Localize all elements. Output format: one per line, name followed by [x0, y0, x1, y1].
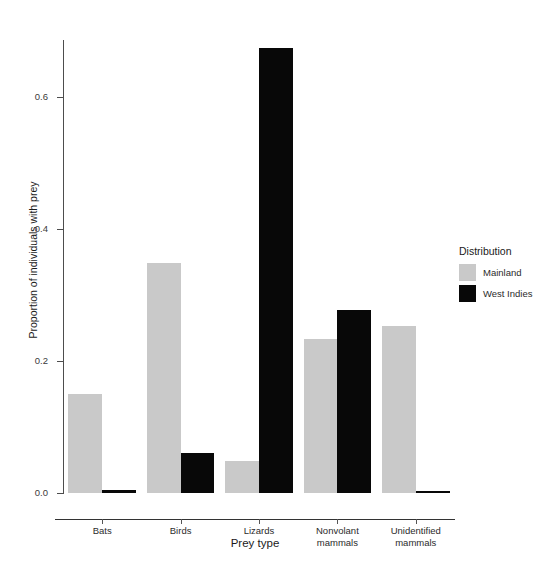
bars-layer: [63, 40, 463, 493]
x-tick-label: Lizards: [214, 525, 304, 537]
bar-nonvolant-mammals-mainland: [304, 339, 338, 493]
bar-lizards-west-indies: [259, 48, 293, 494]
x-tick-label-line: Nonvolant: [292, 525, 382, 537]
bar-lizards-mainland: [225, 461, 259, 493]
y-tick-label: 0.0: [14, 487, 48, 498]
y-tick-mark: [57, 493, 63, 494]
x-tick-label-line: Unidentified: [371, 525, 461, 537]
legend-item[interactable]: West Indies: [459, 285, 555, 302]
legend: Distribution MainlandWest Indies: [459, 245, 555, 306]
x-tick-mark: [337, 519, 338, 524]
y-tick-label: 0.2: [14, 355, 48, 366]
x-tick-mark: [259, 519, 260, 524]
y-tick-label: 0.4: [14, 223, 48, 234]
legend-item[interactable]: Mainland: [459, 264, 555, 281]
bar-chart-figure: Proportion of individuals with prey 0.00…: [0, 0, 555, 564]
mainland-swatch: [459, 264, 476, 281]
west-indies-swatch: [459, 285, 476, 302]
x-tick-mark: [416, 519, 417, 524]
legend-item-label: West Indies: [483, 288, 532, 299]
x-tick-mark: [102, 519, 103, 524]
bar-bats-mainland: [68, 394, 102, 493]
x-tick-label-line: Bats: [57, 525, 147, 537]
x-tick-label: Birds: [136, 525, 226, 537]
x-tick-label-line: mammals: [371, 537, 461, 549]
x-tick-label: Bats: [57, 525, 147, 537]
legend-item-label: Mainland: [483, 267, 522, 278]
x-tick-label: Unidentifiedmammals: [371, 525, 461, 548]
x-axis-title: Prey type: [155, 537, 355, 549]
legend-entries: MainlandWest Indies: [459, 264, 555, 302]
legend-title: Distribution: [459, 245, 555, 257]
y-axis-title: Proportion of individuals with prey: [22, 80, 44, 440]
bar-unidentified-mammals-west-indies: [416, 491, 450, 494]
bar-birds-mainland: [147, 263, 181, 493]
bar-birds-west-indies: [181, 453, 215, 493]
x-tick-mark: [181, 519, 182, 524]
bar-bats-west-indies: [102, 490, 136, 493]
y-tick-label: 0.6: [14, 91, 48, 102]
bar-unidentified-mammals-mainland: [382, 326, 416, 493]
x-axis-line: [55, 519, 455, 520]
x-tick-label-line: Birds: [136, 525, 226, 537]
x-tick-label-line: Lizards: [214, 525, 304, 537]
bar-nonvolant-mammals-west-indies: [337, 310, 371, 493]
